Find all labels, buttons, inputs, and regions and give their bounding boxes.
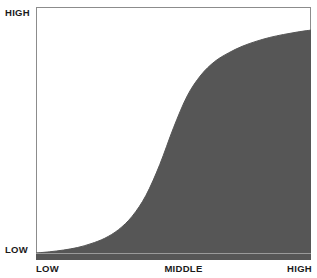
chart-figure: HIGH LOW LOW MIDDLE HIGH	[0, 0, 317, 278]
y-axis-label-high: HIGH	[5, 8, 30, 18]
x-axis-label-middle: MIDDLE	[25, 264, 317, 274]
plot-area	[0, 0, 317, 278]
x-axis-label-high: HIGH	[287, 264, 312, 274]
y-axis-label-low: LOW	[5, 245, 28, 255]
baseline-strip	[36, 254, 311, 260]
